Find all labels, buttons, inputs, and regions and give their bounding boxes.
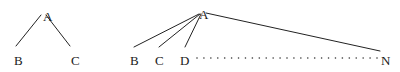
ellipsis-dot: [286, 57, 288, 59]
ellipsis-dot: [252, 57, 254, 59]
ellipsis-dot: [307, 57, 309, 59]
ellipsis-dot: [335, 57, 337, 59]
ellipsis-dot: [196, 57, 198, 59]
ellipsis-dot: [369, 57, 371, 59]
tree-node-label-n: N: [381, 54, 390, 67]
ellipsis-dot: [203, 57, 205, 59]
tree-node-label-b: B: [14, 54, 23, 67]
ellipsis-dot: [217, 57, 219, 59]
ellipsis-dot: [259, 57, 261, 59]
tree-edge-a-n: [206, 13, 380, 51]
tree-node-label-b: B: [130, 54, 139, 67]
tree-edge-a-c: [159, 14, 200, 47]
ellipsis-dot: [342, 57, 344, 59]
tree-node-label-a: A: [199, 8, 208, 21]
tree-node-label-c: C: [155, 54, 164, 67]
tree-node-label-d: D: [180, 54, 189, 67]
tree-node-label-a: A: [43, 10, 52, 23]
ellipsis-dot: [272, 57, 274, 59]
ellipsis-dot: [314, 57, 316, 59]
ellipsis-dot: [265, 57, 267, 59]
ellipsis-dot: [238, 57, 240, 59]
ellipsis-dot: [210, 57, 212, 59]
ellipsis-dot: [321, 57, 323, 59]
ellipsis-dot: [355, 57, 357, 59]
edges-group: [16, 13, 380, 51]
ellipsis-dot: [231, 57, 233, 59]
ellipsis-dot: [224, 57, 226, 59]
ellipsis-dot: [279, 57, 281, 59]
ellipsis-dot: [362, 57, 364, 59]
tree-edge-a-b: [16, 15, 41, 46]
ellipsis-dot: [300, 57, 302, 59]
ellipsis-dot: [349, 57, 351, 59]
tree-edge-a-b: [134, 14, 199, 47]
ellipsis-dot: [245, 57, 247, 59]
ellipsis-dot: [328, 57, 330, 59]
figure-root: ABCABCDN: [0, 0, 400, 72]
tree-node-label-c: C: [71, 54, 80, 67]
ellipsis-dot: [376, 57, 378, 59]
ellipsis-group: [196, 57, 378, 59]
ellipsis-dot: [293, 57, 295, 59]
